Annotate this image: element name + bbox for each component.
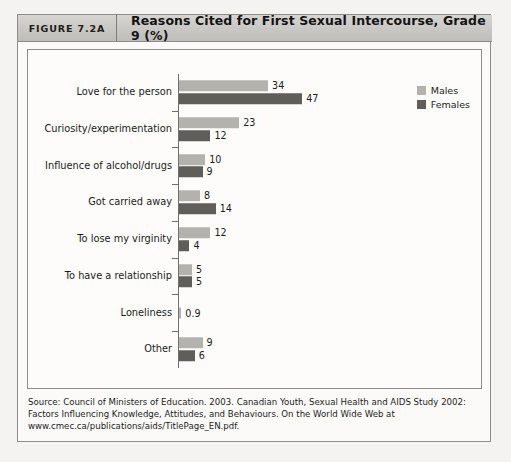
category-label: Got carried away	[88, 197, 172, 208]
bar-row: 5	[179, 264, 202, 275]
bar-value-label: 0.9	[185, 307, 200, 318]
category-label: Influence of alcohol/drugs	[45, 160, 172, 171]
bar-males	[179, 337, 203, 348]
bar-value-label: 12	[214, 130, 226, 141]
figure-title: Reasons Cited for First Sexual Intercour…	[117, 13, 492, 43]
bar-value-label: 6	[199, 350, 205, 361]
bar-males	[179, 191, 200, 202]
axis-tick	[172, 147, 178, 148]
bar-pair: 3447	[179, 81, 318, 105]
bar-row: 14	[179, 203, 232, 214]
bar-value-label: 5	[196, 277, 202, 288]
axis-tick	[172, 184, 178, 185]
bar-value-label: 47	[306, 93, 318, 104]
chart-plot-area: Love for the person3447Curiosity/experim…	[28, 50, 483, 390]
category-label: To have a relationship	[65, 270, 172, 281]
bar-row: 9	[179, 166, 221, 177]
chart-panel: Males Females Love for the person3447Cur…	[27, 49, 482, 389]
category-label: Love for the person	[76, 87, 172, 98]
bar-group: Loneliness0.9	[28, 294, 483, 331]
bar-group: Other96	[28, 331, 483, 368]
bar-pair: 2312	[179, 117, 255, 141]
bar-pair: 814	[179, 191, 232, 215]
bar-pair: 0.9	[179, 307, 201, 318]
bar-value-label: 14	[220, 203, 232, 214]
bar-value-label: 5	[196, 264, 202, 275]
bar-row: 9	[179, 337, 213, 348]
figure-frame: FIGURE 7.2A Reasons Cited for First Sexu…	[17, 14, 491, 442]
category-label: Other	[144, 344, 172, 355]
bar-value-label: 8	[204, 191, 210, 202]
bar-males	[179, 154, 205, 165]
bar-males	[179, 227, 210, 238]
bar-pair: 55	[179, 264, 202, 288]
bar-group: Curiosity/experimentation2312	[28, 111, 483, 148]
bar-group: Got carried away814	[28, 184, 483, 221]
bar-row: 12	[179, 227, 227, 238]
bar-row: 47	[179, 93, 318, 104]
bar-pair: 109	[179, 154, 221, 178]
bar-value-label: 10	[209, 154, 221, 165]
bar-females	[179, 240, 189, 251]
bar-row: 23	[179, 117, 255, 128]
figure-header: FIGURE 7.2A Reasons Cited for First Sexu…	[18, 15, 492, 42]
bar-row: 4	[179, 240, 227, 251]
bar-row: 5	[179, 277, 202, 288]
axis-tick	[172, 331, 178, 332]
axis-tick	[172, 111, 178, 112]
bar-group: To lose my virginity124	[28, 221, 483, 258]
bar-value-label: 9	[207, 166, 213, 177]
bar-group: Influence of alcohol/drugs109	[28, 147, 483, 184]
bar-value-label: 4	[193, 240, 199, 251]
bar-row: 10	[179, 154, 221, 165]
axis-tick	[172, 221, 178, 222]
bar-males	[179, 307, 181, 318]
category-label: Curiosity/experimentation	[44, 124, 172, 135]
bar-females	[179, 277, 192, 288]
bar-row: 8	[179, 191, 232, 202]
bar-pair: 124	[179, 227, 227, 251]
bar-row: 0.9	[179, 307, 201, 318]
bar-females	[179, 203, 216, 214]
bar-females	[179, 93, 302, 104]
axis-tick	[172, 294, 178, 295]
bar-group: To have a relationship55	[28, 258, 483, 295]
bar-pair: 96	[179, 337, 213, 361]
bar-value-label: 9	[207, 337, 213, 348]
bar-males	[179, 264, 192, 275]
bar-value-label: 34	[272, 81, 284, 92]
bar-group: Love for the person3447	[28, 74, 483, 111]
bar-males	[179, 117, 239, 128]
category-label: To lose my virginity	[77, 234, 172, 245]
bar-females	[179, 166, 203, 177]
bar-value-label: 12	[214, 227, 226, 238]
bar-row: 34	[179, 81, 318, 92]
bar-value-label: 23	[243, 117, 255, 128]
axis-tick	[172, 258, 178, 259]
bar-females	[179, 130, 210, 141]
source-note: Source: Council of Ministers of Educatio…	[28, 396, 480, 433]
figure-number-label: FIGURE 7.2A	[18, 15, 117, 41]
bar-females	[179, 350, 195, 361]
bar-row: 12	[179, 130, 255, 141]
bar-row: 6	[179, 350, 213, 361]
category-label: Loneliness	[121, 307, 172, 318]
bar-males	[179, 81, 268, 92]
